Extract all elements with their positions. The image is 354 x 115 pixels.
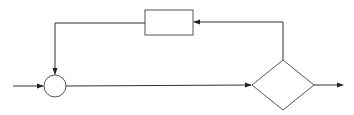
arrowhead-icon — [245, 83, 252, 88]
output-edge — [314, 83, 344, 88]
forward-edge — [66, 83, 252, 88]
decision-node — [252, 60, 314, 110]
summing-junction-node — [44, 75, 66, 97]
arrowhead-icon — [53, 68, 58, 75]
arrowhead-icon — [337, 83, 344, 88]
feedback-edge-to-block — [193, 20, 283, 61]
arrowhead-icon — [193, 20, 200, 25]
input-edge — [13, 84, 44, 89]
feedback-edge-to-junction — [53, 23, 146, 75]
arrowhead-icon — [37, 84, 44, 89]
feedback-block-node — [145, 10, 193, 35]
block-diagram — [0, 0, 354, 115]
